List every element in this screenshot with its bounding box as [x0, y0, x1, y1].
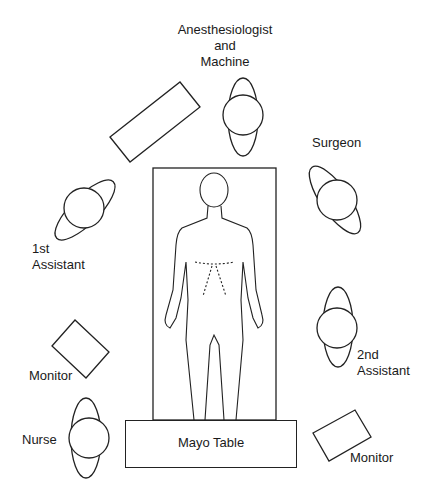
mayo-table-label: Mayo Table: [126, 435, 296, 450]
anesthesia-machine: [110, 82, 200, 162]
surgeon-label: Surgeon: [312, 135, 361, 151]
mayo-table: Mayo Table: [125, 420, 297, 468]
first-assistant-figure: [47, 172, 123, 248]
nurse-label: Nurse: [22, 432, 57, 448]
second-assistant-figure: [317, 287, 357, 367]
nurse-figure: [69, 398, 109, 478]
anesthesiologist-label: Anesthesiologist and Machine: [150, 22, 300, 70]
monitor-left-label: Monitor: [29, 368, 72, 384]
first-assistant-label: 1st Assistant: [32, 241, 85, 273]
patient-figure: [165, 173, 263, 420]
surgeon-figure: [301, 159, 370, 241]
monitor-right-label: Monitor: [350, 450, 393, 466]
anesthesiologist-figure: [223, 78, 263, 156]
second-assistant-label: 2nd Assistant: [357, 347, 410, 379]
